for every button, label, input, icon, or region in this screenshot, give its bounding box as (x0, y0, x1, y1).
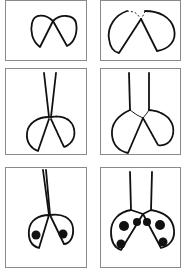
left-antenna (129, 73, 130, 110)
step-1-panel (5, 0, 87, 61)
left-antenna (130, 172, 131, 210)
right-antenna (151, 172, 152, 210)
wings-with-antennae-drawing (6, 69, 88, 156)
right-spot (59, 230, 68, 239)
step-3-panel (5, 68, 87, 155)
step-6-panel (100, 167, 181, 268)
wings-with-antennae-refined-drawing (101, 69, 182, 156)
step-5-panel (5, 167, 87, 268)
left-spot (32, 231, 41, 240)
ladybug-six-spots-drawing (101, 168, 182, 269)
left-antenna (44, 73, 49, 117)
right-antenna (51, 73, 56, 117)
ladybug-two-spots-drawing (6, 168, 88, 269)
wings-enlarged-drawing (101, 1, 182, 62)
step-4-panel (100, 68, 181, 155)
wings-outline-drawing (6, 1, 88, 62)
step-2-panel (100, 0, 181, 61)
